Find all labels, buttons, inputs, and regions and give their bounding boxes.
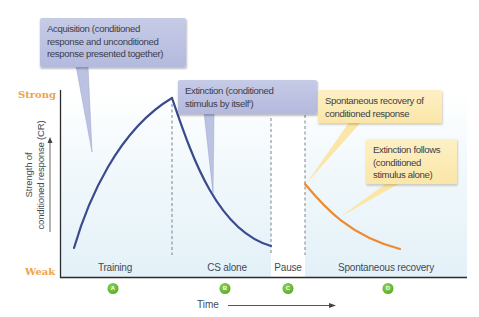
marker-d: D [383,283,394,294]
acquisition-callout-line: Acquisition (conditioned [47,23,179,36]
spontaneous-callout-line: Spontaneous recovery of [325,95,435,108]
x-axis-label: Time [197,299,219,310]
spontaneous-recovery-callout: Spontaneous recovery of conditioned resp… [318,90,442,123]
y-axis-label: Strength of conditioned response (CR) [23,105,47,245]
extinction-follows-callout: Extinction follows (conditioned stimulus… [366,139,457,184]
y-label-arrowhead-icon [48,137,53,143]
acquisition-callout: Acquisition (conditioned response and un… [40,18,186,67]
extinction-callout: Extinction (conditioned stimulus by itse… [178,80,317,114]
strong-label: Strong [18,89,56,100]
extinction-follows-callout-line: stimulus alone) [373,169,450,182]
weak-label: Weak [25,266,55,277]
phase-label-pause: Pause [274,262,301,273]
marker-b: B [220,283,231,294]
extinction-follows-callout-line: (conditioned [373,157,450,170]
time-arrowhead-icon [329,303,336,308]
extinction-callout-line: stimulus by itself') [185,98,310,111]
extinction-follows-callout-line: Extinction follows [373,144,450,157]
marker-c: C [283,283,294,294]
marker-a: A [108,283,119,294]
acquisition-callout-line: response presented together) [47,48,179,61]
spontaneous-callout-line: conditioned response [325,108,435,121]
diagram: Strong Weak Strength of conditioned resp… [0,0,479,317]
extinction-callout-line: Extinction (conditioned [185,85,310,98]
phase-label-spontaneous-recovery: Spontaneous recovery [338,262,434,273]
phase-label-training: Training [98,262,132,273]
background-panel [61,92,271,277]
phase-label-cs-alone: CS alone [207,262,247,273]
y-axis-label-line2: conditioned response (CR) [35,105,47,245]
acquisition-callout-line: response and unconditioned [47,36,179,49]
y-axis-label-line1: Strength of [23,105,35,245]
